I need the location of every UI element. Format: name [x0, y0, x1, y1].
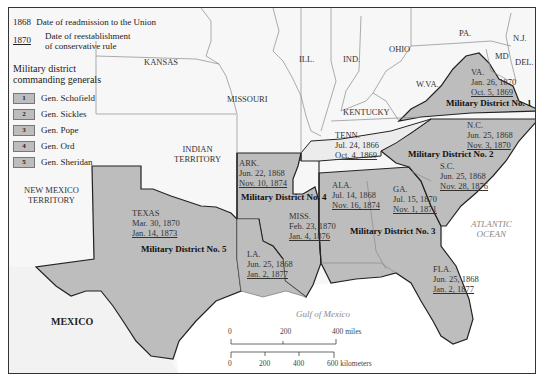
label-kentucky: KENTUCKY [343, 107, 390, 117]
state-ala: ALA. Jul. 14, 1868 Nov. 16, 1874 [332, 180, 380, 210]
district-4-swatch: 4 [13, 141, 35, 152]
legend-general-3: 3Gen. Pope [13, 125, 79, 136]
scale-miles-200: 200 [280, 327, 291, 336]
state-fla: FLA. Jun. 25, 1868 Jan. 2, 1877 [433, 264, 479, 294]
label-pa: PA. [459, 28, 471, 38]
legend-general-5: 5Gen. Sheridan [13, 157, 93, 168]
legend-general-2: 2Gen. Sickles [13, 109, 87, 120]
scale-km-0: 0 [228, 359, 232, 368]
scale-km-600: 600 kilometers [327, 359, 372, 368]
legend-readmission: 1868 Date of readmission to the Union [13, 17, 156, 27]
district-2-label: Military District No. 2 [408, 149, 493, 159]
label-mexico: MEXICO [51, 317, 93, 327]
district-5-label: Military District No. 5 [141, 244, 226, 254]
scale-km-200: 200 [259, 359, 270, 368]
district-3-label: Military District No. 3 [350, 226, 435, 236]
scale-miles-0: 0 [228, 327, 232, 336]
state-ga: GA. Jul. 15, 1870 Nov. 1, 1871 [393, 184, 437, 214]
label-nj: N.J. [513, 33, 527, 43]
label-gulf-of-mexico: Gulf of Mexico [296, 309, 350, 319]
district-2-swatch: 2 [13, 109, 35, 120]
legend-conservative: 1870 [13, 35, 31, 45]
label-missouri: MISSOURI [227, 94, 268, 104]
legend-conservative-year: 1870 [13, 35, 31, 45]
state-nc: N.C. Jun. 25, 1868 Nov. 3, 1870 [467, 120, 513, 150]
legend-readmission-year: 1868 [13, 17, 31, 27]
district-1-label: Military District No. 1 [446, 98, 531, 108]
district-3-swatch: 3 [13, 125, 35, 136]
label-atlantic-ocean: ATLANTIC OCEAN [471, 219, 512, 239]
district-4-label: Military District No. 4 [241, 192, 326, 202]
label-ohio: OHIO [389, 44, 410, 54]
scale-miles-400: 400 miles [332, 327, 361, 336]
label-md: MD [495, 51, 509, 61]
label-ind: IND. [343, 54, 360, 64]
label-new-mexico-territory: NEW MEXICO TERRITORY [24, 185, 79, 205]
state-miss: MISS. Feb. 23, 1870 Jan. 4, 1876 [289, 211, 336, 241]
map-frame: 1868 Date of readmission to the Union 18… [8, 7, 536, 374]
legend-general-4: 4Gen. Ord [13, 141, 75, 152]
district-1-swatch: 1 [13, 93, 35, 104]
state-ark: ARK. Jun. 22, 1868 Nov. 10, 1874 [239, 158, 287, 188]
state-sc: S.C. Jun. 25, 1868 Nov. 28, 1876 [440, 161, 488, 191]
legend-districts-title: Military district commanding generals [13, 63, 101, 85]
scale-km-400: 400 [293, 359, 304, 368]
state-texas: TEXAS Mar. 30, 1870 Jan. 14, 1873 [132, 208, 180, 238]
legend-conservative-text: Date of reestablishment of conservative … [45, 31, 130, 51]
label-wva: W.VA. [416, 79, 439, 89]
state-la: LA. Jun. 25, 1868 Jan. 2, 1877 [247, 249, 293, 279]
label-ill: ILL. [299, 54, 314, 64]
legend-readmission-text: Date of readmission to the Union [36, 17, 156, 27]
legend-general-1: 1Gen. Schofield [13, 93, 95, 104]
state-va: VA. Jan. 26, 1870 Oct. 5, 1869 [471, 67, 516, 97]
district-5-swatch: 5 [13, 157, 35, 168]
state-tenn: TENN. Jul. 24, 1866 Oct. 4, 1869 [335, 130, 379, 160]
label-del: DEL. [515, 57, 534, 67]
label-kansas: KANSAS [144, 57, 178, 67]
label-indian-territory: INDIAN TERRITORY [174, 144, 221, 164]
